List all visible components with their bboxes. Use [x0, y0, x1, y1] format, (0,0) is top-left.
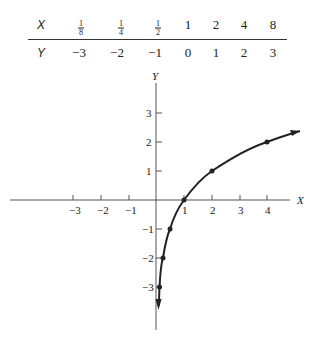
- data-point: [265, 140, 270, 145]
- x-tick-label: −3: [69, 204, 81, 216]
- y-axis-label: Y: [152, 70, 160, 82]
- data-point: [210, 169, 215, 174]
- x-tick-label: −1: [125, 204, 137, 216]
- data-point: [157, 285, 162, 290]
- log-curve: [159, 131, 300, 306]
- y-tick-label: 1: [146, 165, 152, 177]
- x-tick-label: 1: [182, 204, 188, 216]
- y-tick-label: −1: [142, 223, 154, 235]
- data-point: [182, 198, 187, 203]
- data-point: [168, 227, 173, 232]
- data-point: [161, 256, 166, 261]
- y-tick-label: −2: [142, 252, 154, 264]
- x-tick-label: 2: [210, 204, 216, 216]
- arrow-right-icon: [290, 130, 300, 136]
- log-graph: X Y −3 −2 −1 1 2 3 4 3 2 1 −1 −2 −3: [0, 0, 317, 341]
- x-axis-label: X: [296, 194, 305, 206]
- x-ticks: [73, 195, 267, 200]
- y-tick-label: 3: [146, 107, 152, 119]
- y-tick-label: 2: [146, 136, 152, 148]
- x-tick-label: 3: [238, 204, 244, 216]
- x-tick-label: 4: [265, 204, 271, 216]
- y-tick-label: −3: [142, 281, 154, 293]
- x-tick-label: −2: [97, 204, 109, 216]
